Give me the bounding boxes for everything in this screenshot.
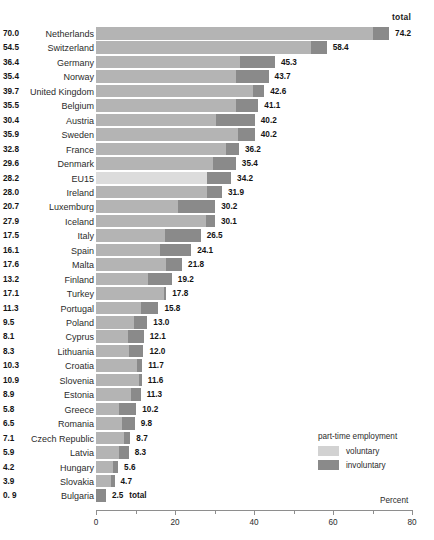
- bar-segment-involuntary: [148, 273, 172, 286]
- bar-row: Belgium35.541.1: [0, 99, 434, 113]
- bar-track: [96, 359, 142, 372]
- bar-track: [96, 128, 255, 141]
- bar-segment-involuntary: [311, 41, 326, 54]
- legend-label-involuntary: involuntary: [346, 461, 386, 470]
- total-value-label: 5.6: [124, 462, 135, 473]
- bar-segment-involuntary: [213, 157, 236, 170]
- bar-row: Luxemburg20.730.2: [0, 200, 434, 214]
- total-value-label: 35.4: [242, 158, 258, 169]
- bar-segment-involuntary: [238, 128, 255, 141]
- bar-segment-voluntary: [96, 27, 373, 40]
- voluntary-value-label: 28.0: [3, 187, 19, 198]
- bar-row: Bulgaria0. 92.5total: [0, 489, 434, 503]
- bar-track: [96, 200, 215, 213]
- total-value-label: 4.7: [121, 476, 132, 487]
- voluntary-value-label: 17.6: [3, 259, 19, 270]
- bar-segment-voluntary: [96, 157, 213, 170]
- legend-item-involuntary: involuntary: [318, 460, 434, 470]
- bar-row: Slovenia10.911.6: [0, 374, 434, 388]
- bar-segment-voluntary: [96, 41, 311, 54]
- total-value-label: 17.8: [172, 288, 188, 299]
- x-axis-tick: [96, 510, 97, 515]
- bar-row: Lithuania8.312.0: [0, 345, 434, 359]
- voluntary-value-label: 5.9: [3, 447, 14, 458]
- bar-segment-involuntary: [206, 215, 215, 228]
- x-axis-tick-label: 0: [94, 518, 99, 527]
- bar-row: Austria30.440.2: [0, 114, 434, 128]
- bar-track: [96, 41, 327, 54]
- x-axis-tick: [175, 510, 176, 515]
- voluntary-value-label: 3.9: [3, 476, 14, 487]
- bar-row: Sweden35.940.2: [0, 128, 434, 142]
- voluntary-value-label: 16.1: [3, 245, 19, 256]
- bar-row: Greece5.810.2: [0, 403, 434, 417]
- bar-segment-involuntary: [124, 432, 130, 445]
- bar-segment-voluntary: [96, 258, 166, 271]
- bar-track: [96, 229, 201, 242]
- bar-segment-involuntary: [111, 475, 114, 488]
- bar-row: France32.836.2: [0, 143, 434, 157]
- bar-row: Finland13.219.2: [0, 273, 434, 287]
- bar-track: [96, 215, 215, 228]
- bar-segment-involuntary: [164, 287, 167, 300]
- bar-segment-voluntary: [96, 359, 137, 372]
- bar-segment-involuntary: [119, 446, 128, 459]
- bar-row: Iceland27.930.1: [0, 215, 434, 229]
- bar-segment-voluntary: [96, 186, 207, 199]
- bar-track: [96, 316, 147, 329]
- total-value-label: 26.5: [207, 230, 223, 241]
- x-axis-tick: [136, 510, 137, 514]
- bar-segment-involuntary: [128, 330, 144, 343]
- bar-row: Italy17.526.5: [0, 229, 434, 243]
- bar-track: [96, 302, 158, 315]
- bar-segment-voluntary: [96, 345, 129, 358]
- bar-track: [96, 70, 269, 83]
- bar-segment-involuntary: [139, 374, 142, 387]
- bar-segment-involuntary: [207, 172, 231, 185]
- bar-segment-involuntary: [96, 489, 106, 502]
- bar-row: EU1528.234.2: [0, 172, 434, 186]
- bar-segment-involuntary: [165, 229, 201, 242]
- bar-segment-involuntary: [216, 114, 255, 127]
- bar-track: [96, 461, 118, 474]
- total-value-label: 21.8: [188, 259, 204, 270]
- bar-track: [96, 273, 172, 286]
- voluntary-value-label: 10.3: [3, 360, 19, 371]
- bar-row: Norway35.443.7: [0, 70, 434, 84]
- voluntary-value-label: 70.0: [3, 28, 19, 39]
- bar-track: [96, 244, 191, 257]
- x-axis-tick: [294, 510, 295, 514]
- bar-track: [96, 374, 142, 387]
- total-value-label: 19.2: [178, 274, 194, 285]
- bar-segment-involuntary: [141, 302, 159, 315]
- bar-segment-voluntary: [96, 388, 131, 401]
- total-value-label: 40.2: [261, 129, 277, 140]
- total-value-label: 41.1: [264, 100, 280, 111]
- bar-segment-voluntary: [96, 143, 226, 156]
- x-axis-tick: [333, 510, 334, 515]
- bar-row: Switzerland54.558.4: [0, 41, 434, 55]
- total-value-label: 11.7: [148, 360, 163, 371]
- bar-track: [96, 287, 166, 300]
- bar-row: Germany36.445.3: [0, 56, 434, 70]
- total-value-label: 12.0: [149, 346, 165, 357]
- bar-track: [96, 417, 135, 430]
- bar-segment-voluntary: [96, 374, 139, 387]
- voluntary-value-label: 8.9: [3, 389, 14, 400]
- total-value-label: 10.2: [142, 404, 158, 415]
- voluntary-value-label: 54.5: [3, 42, 19, 53]
- x-axis-tick-label: 40: [249, 518, 258, 527]
- legend: part-time employment voluntary involunta…: [318, 432, 434, 474]
- voluntary-value-label: 17.1: [3, 288, 19, 299]
- bar-segment-voluntary: [96, 70, 236, 83]
- bar-segment-involuntary: [129, 345, 144, 358]
- bar-row: Malta17.621.8: [0, 258, 434, 272]
- x-axis-tick-label: 60: [328, 518, 337, 527]
- bar-track: [96, 258, 182, 271]
- bar-segment-voluntary: [96, 330, 128, 343]
- bar-track: [96, 388, 141, 401]
- bar-segment-involuntary: [236, 70, 269, 83]
- bar-segment-involuntary: [207, 186, 222, 199]
- legend-label-voluntary: voluntary: [346, 447, 379, 456]
- voluntary-value-label: 11.3: [3, 303, 18, 314]
